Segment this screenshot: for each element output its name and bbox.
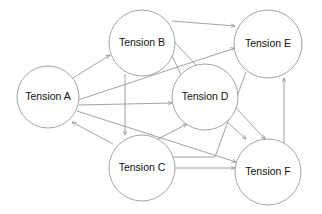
node-label: Tension D xyxy=(182,90,229,102)
edge-b-to-e xyxy=(172,21,235,26)
node-label: Tension B xyxy=(119,36,165,48)
edge-c-to-d xyxy=(158,124,187,139)
node-tension-e[interactable]: Tension E xyxy=(234,10,302,78)
edge-a-to-b xyxy=(73,55,110,78)
tension-graph: Tension A Tension B Tension C Tension D … xyxy=(0,0,322,214)
node-label: Tension C xyxy=(119,161,166,173)
node-label: Tension A xyxy=(25,90,71,102)
edge-a-to-d xyxy=(79,103,172,105)
node-label: Tension F xyxy=(245,165,291,177)
node-tension-f[interactable]: Tension F xyxy=(235,139,301,205)
node-tension-a[interactable]: Tension A xyxy=(17,66,79,128)
node-tension-b[interactable]: Tension B xyxy=(109,10,175,76)
node-label: Tension E xyxy=(245,37,291,49)
edge-c-to-a xyxy=(72,122,113,144)
node-tension-d[interactable]: Tension D xyxy=(172,64,238,130)
node-tension-c[interactable]: Tension C xyxy=(109,135,175,201)
edge-d-to-f xyxy=(227,122,246,139)
